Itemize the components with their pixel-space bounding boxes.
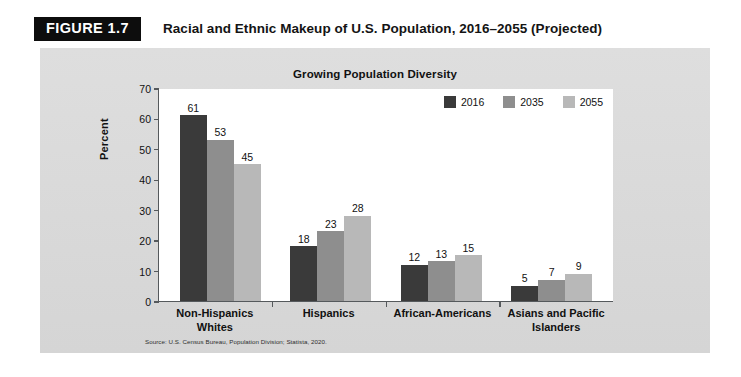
bar-item[interactable]: 13: [428, 89, 455, 301]
bar[interactable]: [511, 286, 538, 301]
bar-value-label: 61: [187, 103, 199, 114]
x-axis-label: Asians and PacificIslanders: [499, 306, 613, 335]
bar-group: 579: [511, 89, 592, 301]
bar[interactable]: [207, 140, 234, 301]
bar[interactable]: [317, 231, 344, 301]
y-axis-tick: 10: [129, 266, 159, 278]
bar[interactable]: [401, 265, 428, 302]
bar-group: 182328: [290, 89, 371, 301]
bar-value-label: 7: [549, 267, 555, 278]
y-axis-tick: 40: [129, 174, 159, 186]
y-axis-tick: 50: [129, 144, 159, 156]
bar-value-label: 15: [462, 243, 474, 254]
bar-item[interactable]: 15: [455, 89, 482, 301]
bar-group: 121315: [401, 89, 482, 301]
chart-panel: Growing Population Diversity Percent 010…: [40, 48, 710, 353]
bar[interactable]: [428, 261, 455, 301]
bar-item[interactable]: 23: [317, 89, 344, 301]
y-axis-tick: 60: [129, 113, 159, 125]
y-axis-tick: 20: [129, 235, 159, 247]
bar[interactable]: [565, 274, 592, 301]
bar[interactable]: [180, 115, 207, 301]
bar[interactable]: [290, 246, 317, 301]
bar-group: 615345: [180, 89, 261, 301]
bar[interactable]: [234, 164, 261, 301]
x-axis-label: Non-HispanicsWhites: [158, 306, 272, 335]
bar[interactable]: [538, 280, 565, 301]
x-axis-label: African-Americans: [386, 306, 500, 335]
x-axis-label: Hispanics: [272, 306, 386, 335]
figure-number-badge: FIGURE 1.7: [34, 17, 141, 41]
bar-item[interactable]: 18: [290, 89, 317, 301]
y-axis-label: Percent: [98, 118, 110, 160]
x-axis-labels: Non-HispanicsWhitesHispanicsAfrican-Amer…: [158, 306, 613, 335]
plot-area: 010203040506070 2016 2035 2055 615345182…: [158, 89, 613, 302]
y-axis-tick: 30: [129, 205, 159, 217]
bar-value-label: 5: [522, 273, 528, 284]
bar-groups: 615345182328121315579: [159, 89, 613, 301]
bar-item[interactable]: 5: [511, 89, 538, 301]
bar-item[interactable]: 53: [207, 89, 234, 301]
bar-value-label: 28: [352, 203, 364, 214]
figure-header: FIGURE 1.7 Racial and Ethnic Makeup of U…: [34, 17, 602, 41]
bar-value-label: 12: [408, 252, 420, 263]
bar-item[interactable]: 61: [180, 89, 207, 301]
chart-title: Growing Population Diversity: [40, 68, 710, 80]
bar-item[interactable]: 12: [401, 89, 428, 301]
bar-value-label: 45: [241, 152, 253, 163]
bar-value-label: 23: [325, 219, 337, 230]
bar-item[interactable]: 9: [565, 89, 592, 301]
figure-title: Racial and Ethnic Makeup of U.S. Populat…: [163, 21, 602, 36]
bar-item[interactable]: 28: [344, 89, 371, 301]
bar-item[interactable]: 45: [234, 89, 261, 301]
bar[interactable]: [344, 216, 371, 301]
y-axis-tick: 70: [129, 83, 159, 95]
bar-value-label: 13: [435, 249, 447, 260]
source-note: Source: U.S. Census Bureau, Population D…: [145, 338, 327, 345]
bar-value-label: 18: [298, 234, 310, 245]
bar-value-label: 9: [576, 261, 582, 272]
y-axis-tick: 0: [129, 296, 159, 308]
bar-item[interactable]: 7: [538, 89, 565, 301]
bar[interactable]: [455, 255, 482, 301]
bar-value-label: 53: [214, 127, 226, 138]
